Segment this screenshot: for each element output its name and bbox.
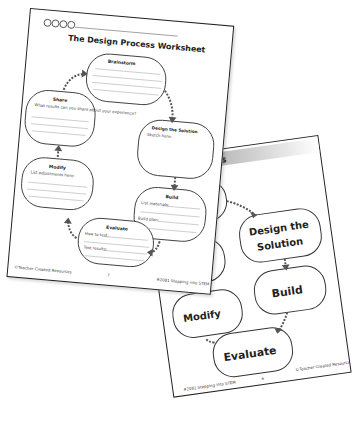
design-process-worksheet-sheet: The Design Process Worksheet Brainstorm … (6, 8, 234, 295)
ws-page-number: 7 (107, 273, 110, 278)
logo-circles (44, 19, 75, 29)
poster-page-number: 6 (261, 376, 265, 381)
worksheet-diagram: The Design Process Worksheet Brainstorm … (8, 9, 234, 294)
poster-footer-left: #2081 Stepping into STEM (183, 379, 237, 391)
ws-footer-left: ©Teacher Created Resources (14, 264, 72, 274)
worksheet-title: The Design Process Worksheet (68, 33, 206, 54)
poster-footer-right: ©Teacher Created Resources (295, 359, 351, 372)
ws-footer-right: #2081 Stepping into STEM (156, 277, 210, 287)
